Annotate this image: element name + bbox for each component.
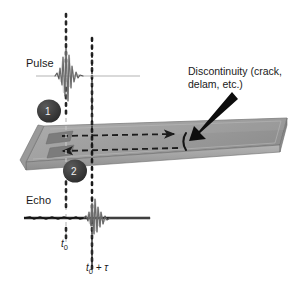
discontinuity-label-line2: delam, etc.) xyxy=(188,78,243,90)
echo-label: Echo xyxy=(26,194,51,208)
badge-1-label: 1 xyxy=(45,106,51,117)
pulse-echo-diagram: Pulse Echo Discontinuity (crack, delam, … xyxy=(0,0,302,284)
badge-2-label: 2 xyxy=(71,166,77,177)
time-echo-tau-symbol: τ xyxy=(104,262,108,273)
time-origin-label: t0 xyxy=(61,238,68,252)
pulse-waveform-halo xyxy=(58,50,79,99)
time-echo-label: t0 + τ xyxy=(86,262,108,276)
pulse-trace-group xyxy=(36,48,140,101)
echo-waveform-halo xyxy=(87,201,106,231)
specimen-plate xyxy=(20,118,287,170)
discontinuity-label: Discontinuity (crack, delam, etc.) xyxy=(188,65,300,91)
discontinuity-label-line1: Discontinuity (crack, xyxy=(188,65,282,77)
pulse-label: Pulse xyxy=(26,57,54,71)
time-origin-subscript: 0 xyxy=(64,243,68,252)
diagram-canvas xyxy=(0,0,302,284)
time-echo-operator: + xyxy=(93,262,104,273)
